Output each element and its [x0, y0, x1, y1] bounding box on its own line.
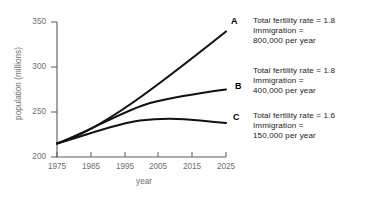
y-tick-label-250: 250: [20, 107, 46, 116]
legend-c-fertility: Total fertility rate = 1.6: [253, 111, 335, 121]
x-axis-title: year: [119, 177, 169, 186]
legend-entry-c: Total fertility rate = 1.6 Immigration =…: [253, 111, 335, 142]
legend-a-immigration-value: 800,000 per year: [253, 36, 335, 46]
y-axis-title: population (millions): [14, 29, 23, 139]
legend-a-fertility: Total fertility rate = 1.8: [253, 16, 335, 26]
x-tick-label-2005: 2005: [141, 162, 175, 171]
series-line-a: [57, 32, 226, 144]
series-tag-b: B: [235, 81, 242, 91]
series-tag-a: A: [231, 16, 238, 26]
legend-entry-b: Total fertility rate = 1.8 Immigration =…: [253, 66, 335, 97]
legend-entry-a: Total fertility rate = 1.8 Immigration =…: [253, 16, 335, 47]
x-tick-label-1985: 1985: [74, 162, 108, 171]
y-axis-ticks: [51, 22, 57, 157]
x-tick-label-2015: 2015: [175, 162, 209, 171]
legend-b-immigration-label: Immigration =: [253, 76, 335, 86]
legend-c-immigration-value: 150,000 per year: [253, 131, 335, 141]
population-projection-chart: 350 300 250 200 1975 1985 1995 2005 2015…: [0, 0, 367, 197]
series-tag-c: C: [233, 112, 240, 122]
y-tick-label-200: 200: [20, 152, 46, 161]
x-tick-label-1975: 1975: [40, 162, 74, 171]
legend-b-immigration-value: 400,000 per year: [253, 86, 335, 96]
x-tick-label-2025: 2025: [209, 162, 243, 171]
series-line-c: [57, 119, 226, 144]
x-axis-ticks: [57, 152, 226, 157]
y-tick-label-350: 350: [20, 17, 46, 26]
legend-b-fertility: Total fertility rate = 1.8: [253, 66, 335, 76]
legend-a-immigration-label: Immigration =: [253, 26, 335, 36]
legend-c-immigration-label: Immigration =: [253, 121, 335, 131]
x-tick-label-1995: 1995: [108, 162, 142, 171]
y-tick-label-300: 300: [20, 62, 46, 71]
